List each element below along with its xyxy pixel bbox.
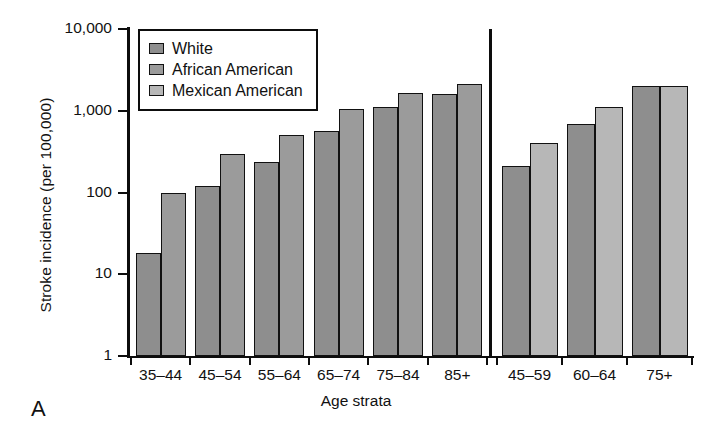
x-tick xyxy=(367,356,369,365)
bar xyxy=(432,94,457,356)
bar xyxy=(502,166,530,356)
y-tick xyxy=(118,192,128,194)
y-tick xyxy=(118,110,128,112)
y-tick xyxy=(118,355,128,357)
x-tick xyxy=(308,356,310,365)
bar xyxy=(457,84,482,356)
bar xyxy=(136,253,161,356)
stroke-incidence-chart: Stroke incidence (per 100,000) 1101001,0… xyxy=(0,0,712,440)
legend-label: African American xyxy=(172,62,293,78)
x-tick-label: 60–64 xyxy=(562,366,627,384)
y-axis-title: Stroke incidence (per 100,000) xyxy=(37,35,55,375)
bar xyxy=(632,86,660,356)
panel-letter: A xyxy=(31,396,46,422)
y-tick xyxy=(118,28,128,30)
x-tick-label: 65–74 xyxy=(309,366,368,384)
bar xyxy=(595,107,623,356)
legend-swatch xyxy=(149,64,164,75)
legend-swatch xyxy=(149,43,164,54)
legend-label: White xyxy=(172,41,213,57)
x-tick-label: 55–64 xyxy=(250,366,309,384)
y-tick xyxy=(118,273,128,275)
bar xyxy=(339,109,364,356)
x-tick xyxy=(626,356,628,365)
x-tick-label: 85+ xyxy=(428,366,487,384)
bar xyxy=(660,86,688,356)
bar xyxy=(195,186,220,356)
bar xyxy=(373,107,398,356)
legend-item: White xyxy=(149,38,303,59)
x-tick-label: 45–54 xyxy=(190,366,249,384)
y-tick-label: 10 xyxy=(26,264,112,282)
x-tick xyxy=(427,356,429,365)
x-tick xyxy=(561,356,563,365)
x-tick xyxy=(496,356,498,365)
panel-divider xyxy=(489,29,492,356)
bar xyxy=(398,93,423,356)
bar xyxy=(220,154,245,356)
x-axis-title: Age strata xyxy=(0,392,712,410)
x-tick xyxy=(189,356,191,365)
y-tick-label: 10,000 xyxy=(26,19,112,37)
x-tick-label: 75–84 xyxy=(368,366,427,384)
legend-label: Mexican American xyxy=(172,83,303,99)
x-tick-label: 45–59 xyxy=(497,366,562,384)
y-tick-label: 100 xyxy=(26,183,112,201)
legend-swatch xyxy=(149,85,164,96)
legend-item: African American xyxy=(149,59,303,80)
x-tick xyxy=(130,356,132,365)
legend: WhiteAfrican AmericanMexican American xyxy=(138,29,318,111)
bar xyxy=(279,135,304,356)
legend-item: Mexican American xyxy=(149,80,303,101)
x-tick-label: 75+ xyxy=(627,366,692,384)
x-tick-label: 35–44 xyxy=(131,366,190,384)
x-tick xyxy=(486,356,488,365)
y-tick-label: 1 xyxy=(26,346,112,364)
y-tick-label: 1,000 xyxy=(26,101,112,119)
bar xyxy=(567,124,595,356)
bar xyxy=(254,162,279,356)
bar xyxy=(314,131,339,356)
x-tick xyxy=(249,356,251,365)
bar xyxy=(161,193,186,356)
bar xyxy=(530,143,558,356)
x-tick xyxy=(691,356,693,365)
